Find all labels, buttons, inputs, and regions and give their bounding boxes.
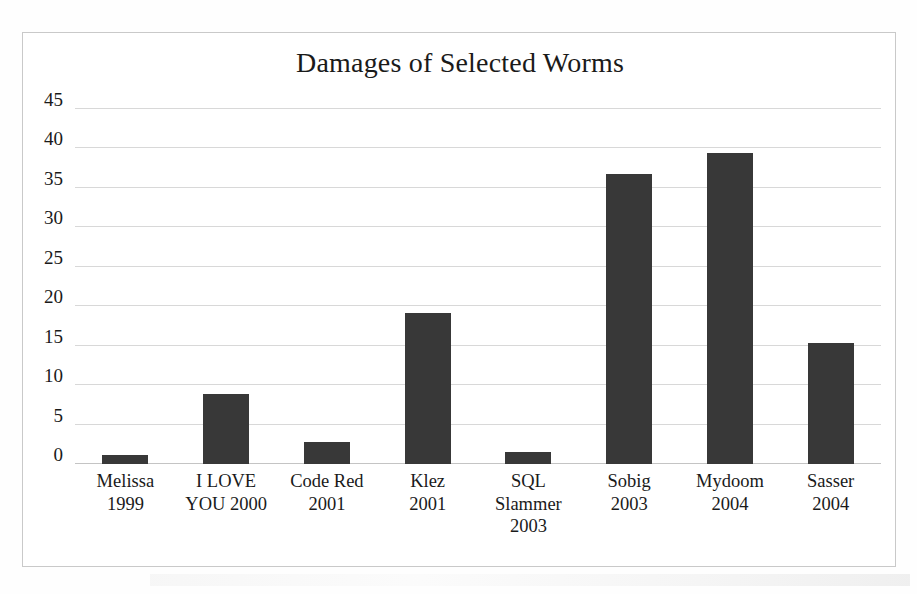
scanned-page: Damages of Selected Worms 05101520253035… — [0, 0, 917, 594]
bar-slot — [780, 109, 881, 464]
y-axis-tick-label: 25 — [44, 247, 63, 266]
bar-slot — [680, 109, 781, 464]
y-axis-tick-label: 0 — [54, 445, 64, 464]
bar-slot — [75, 109, 176, 464]
x-axis-tick-label: Code Red2001 — [277, 470, 378, 515]
bar[interactable] — [808, 343, 854, 464]
x-axis-tick-label-line: 1999 — [75, 493, 176, 516]
x-axis-tick-label-line: 2004 — [680, 493, 781, 516]
x-axis-tick-label: Klez2001 — [377, 470, 478, 515]
y-axis-tick-label: 5 — [54, 405, 64, 424]
bar[interactable] — [405, 313, 451, 464]
bar[interactable] — [707, 153, 753, 464]
y-axis-tick-label: 15 — [44, 326, 63, 345]
bar[interactable] — [304, 442, 350, 464]
x-axis-tick-label-line: Melissa — [75, 470, 176, 493]
x-axis-tick-label-line: I LOVE — [176, 470, 277, 493]
x-axis-tick-label-line: Slammer — [478, 493, 579, 516]
bar-slot — [176, 109, 277, 464]
y-axis-tick-label: 35 — [44, 168, 63, 187]
plot-area: 051015202530354045 — [75, 109, 881, 464]
bar-slot — [478, 109, 579, 464]
x-axis-tick-label-line: Klez — [377, 470, 478, 493]
x-axis-tick-label: Melissa1999 — [75, 470, 176, 515]
x-axis-tick-label: Mydoom2004 — [680, 470, 781, 515]
bar[interactable] — [505, 452, 551, 464]
x-axis-labels: Melissa1999I LOVEYOU 2000Code Red2001Kle… — [75, 470, 881, 565]
x-axis-tick-label-line: Code Red — [277, 470, 378, 493]
chart-frame: Damages of Selected Worms 05101520253035… — [22, 32, 896, 567]
bar-series — [75, 109, 881, 464]
x-axis-tick-label: Sobig2003 — [579, 470, 680, 515]
x-axis-tick-label-line: SQL — [478, 470, 579, 493]
x-axis-tick-label: SQLSlammer2003 — [478, 470, 579, 538]
x-axis-tick-label-line: Sasser — [780, 470, 881, 493]
x-axis-tick-label-line: YOU 2000 — [176, 493, 277, 516]
bar[interactable] — [606, 174, 652, 464]
x-axis-tick-label-line: 2001 — [377, 493, 478, 516]
scan-artifact — [150, 574, 910, 586]
chart-title: Damages of Selected Worms — [23, 47, 897, 79]
bar[interactable] — [102, 455, 148, 464]
y-axis-tick-label: 10 — [44, 366, 63, 385]
x-axis-tick-label-line: 2004 — [780, 493, 881, 516]
bar-slot — [579, 109, 680, 464]
x-axis-tick-label: Sasser2004 — [780, 470, 881, 515]
x-axis-tick-label-line: 2003 — [478, 515, 579, 538]
bar[interactable] — [203, 394, 249, 464]
x-axis-tick-label: I LOVEYOU 2000 — [176, 470, 277, 515]
x-axis-tick-label-line: Sobig — [579, 470, 680, 493]
y-axis-tick-label: 30 — [44, 208, 63, 227]
x-axis-tick-label-line: 2003 — [579, 493, 680, 516]
bar-slot — [377, 109, 478, 464]
x-axis-tick-label-line: Mydoom — [680, 470, 781, 493]
x-axis-tick-label-line: 2001 — [277, 493, 378, 516]
y-axis-tick-label: 20 — [44, 287, 63, 306]
y-axis-tick-label: 40 — [44, 129, 63, 148]
bar-slot — [277, 109, 378, 464]
y-axis-tick-label: 45 — [44, 90, 63, 109]
